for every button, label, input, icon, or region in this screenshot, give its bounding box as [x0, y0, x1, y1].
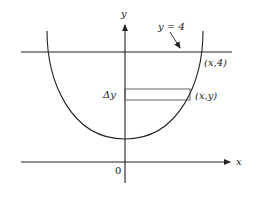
diagram-canvas: y x 0 y = 4 (x,4) (x,y) Δy [0, 0, 257, 206]
origin-label: 0 [115, 165, 121, 176]
point-xy-label: (x,y) [195, 90, 217, 101]
delta-y-label: Δy [102, 89, 116, 100]
delta-y-strip [125, 89, 190, 100]
y-axis-label: y [120, 8, 127, 19]
point-x4-label: (x,4) [204, 57, 227, 68]
label-pointer-arrow [170, 32, 180, 48]
line-y4-label: y = 4 [157, 21, 185, 32]
x-axis-label: x [236, 156, 242, 167]
